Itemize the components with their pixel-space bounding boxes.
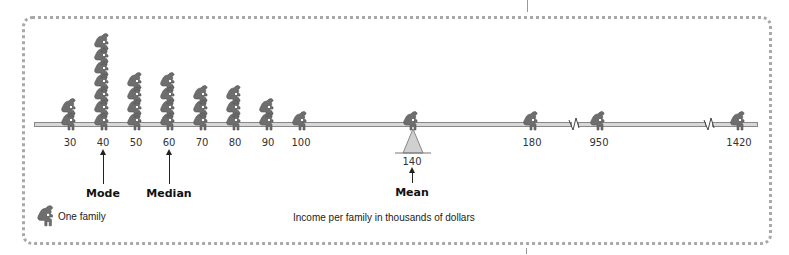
fulcrum-icon bbox=[393, 127, 433, 157]
divider-mark bbox=[527, 0, 528, 12]
family-icon bbox=[158, 72, 180, 92]
tick-label: 100 bbox=[291, 137, 310, 148]
axis-break-icon bbox=[702, 116, 716, 132]
legend-label: One family bbox=[58, 211, 106, 222]
tick-label: 40 bbox=[97, 137, 110, 148]
tick-label: 50 bbox=[130, 137, 143, 148]
family-icon bbox=[257, 98, 279, 118]
tick-label: 60 bbox=[163, 137, 176, 148]
tick-label: 950 bbox=[589, 137, 608, 148]
tick-label: 30 bbox=[64, 137, 77, 148]
family-icon bbox=[59, 98, 81, 118]
family-icon bbox=[125, 72, 147, 92]
family-icon bbox=[728, 111, 750, 131]
mean-arrow bbox=[412, 172, 413, 183]
family-icon bbox=[521, 111, 543, 131]
median-arrow bbox=[169, 154, 170, 184]
tick-label: 1420 bbox=[726, 137, 751, 148]
mode-arrow bbox=[103, 154, 104, 184]
tick-label: 90 bbox=[262, 137, 275, 148]
family-icon bbox=[92, 33, 114, 53]
axis-break-icon bbox=[567, 116, 581, 132]
tick-label: 80 bbox=[229, 137, 242, 148]
divider-mark bbox=[526, 248, 527, 254]
tick-label: 180 bbox=[522, 137, 541, 148]
family-icon bbox=[290, 111, 312, 131]
family-icon bbox=[191, 85, 213, 105]
tick-label: 140 bbox=[402, 156, 421, 167]
x-axis-label: Income per family in thousands of dollar… bbox=[293, 212, 475, 223]
family-icon bbox=[224, 85, 246, 105]
mode-label: Mode bbox=[86, 187, 120, 200]
tick-label: 70 bbox=[196, 137, 209, 148]
one-family-icon bbox=[35, 203, 59, 229]
family-icon bbox=[401, 111, 423, 131]
median-label: Median bbox=[146, 187, 191, 200]
mean-label: Mean bbox=[395, 186, 429, 199]
family-icon bbox=[588, 111, 610, 131]
